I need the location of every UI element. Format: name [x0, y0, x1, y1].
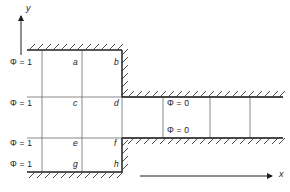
boundary-label-right-1: Φ = 0 [167, 99, 189, 108]
figure-svg [0, 0, 290, 192]
y-axis-label: y [26, 4, 31, 13]
node-label-c: c [73, 99, 77, 108]
hatch-bottom-left [29, 172, 123, 178]
node-label-e: e [73, 139, 78, 148]
boundary-label-left-1: Φ = 1 [10, 58, 32, 67]
x-axis-label: x [279, 170, 284, 179]
hatch-step-lower-vertical [122, 140, 128, 170]
wall-group [27, 50, 283, 172]
node-label-f: f [114, 139, 116, 148]
node-label-a: a [73, 58, 78, 67]
diagram-canvas: y x Φ = 1 Φ = 1 Φ = 1 Φ = 1 Φ = 0 Φ = 0 … [0, 0, 290, 192]
axes-group [21, 16, 272, 176]
hatch-top-left [29, 44, 123, 50]
hatch-bottom-right [128, 138, 285, 144]
hatch-top-right [128, 91, 285, 97]
node-label-d: d [114, 99, 119, 108]
boundary-label-left-3: Φ = 1 [10, 139, 32, 148]
node-label-h: h [114, 160, 119, 169]
boundary-label-left-4: Φ = 1 [10, 160, 32, 169]
boundary-label-right-2: Φ = 0 [167, 126, 189, 135]
grid-lines-right [122, 97, 283, 138]
hatching-group [29, 44, 285, 178]
boundary-label-left-2: Φ = 1 [10, 99, 32, 108]
grid-lines-left [27, 50, 122, 172]
node-label-g: g [73, 160, 78, 169]
node-label-b: b [114, 58, 119, 67]
hatch-step-upper-vertical [122, 49, 128, 95]
